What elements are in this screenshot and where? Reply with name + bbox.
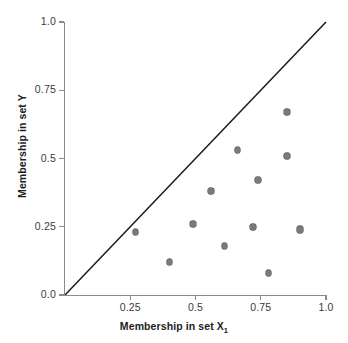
y-axis-tick-label: 1.0: [16, 15, 56, 27]
y-axis-tick: [59, 226, 64, 227]
y-axis-title: Membership in set Y: [16, 66, 28, 226]
x-axis-title-subscript: 1: [224, 326, 228, 335]
data-point-marker: [235, 147, 240, 153]
data-point-marker: [297, 226, 302, 232]
data-point-marker: [222, 243, 227, 249]
data-point-marker: [255, 177, 260, 183]
y-axis-line: [64, 22, 65, 296]
y-axis-tick: [59, 21, 64, 22]
x-axis-tick-label: 1.0: [306, 301, 346, 313]
x-axis-tick: [195, 295, 196, 300]
x-axis-tick-label: 0.25: [110, 301, 150, 313]
data-point-marker: [284, 109, 289, 115]
x-axis-tick: [325, 295, 326, 300]
y-axis-tick: [59, 158, 64, 159]
y-axis-tick: [59, 294, 64, 295]
x-axis-title: Membership in set X1: [0, 320, 348, 332]
x-axis-title-text: Membership in set X: [120, 320, 224, 332]
x-axis-tick: [260, 295, 261, 300]
y-axis-tick: [59, 90, 64, 91]
y-axis-tick-label: 0.0: [16, 288, 56, 300]
x-axis-tick-label: 0.75: [241, 301, 281, 313]
data-point-marker: [133, 229, 138, 235]
scatter-plot-figure: 1.00.750.50.250.00.250.50.751.0 Membersh…: [0, 0, 348, 343]
x-axis-tick-label: 0.5: [176, 301, 216, 313]
data-point-marker: [190, 221, 195, 227]
data-point-marker: [208, 188, 213, 194]
data-point-marker: [284, 153, 289, 159]
data-point-marker: [167, 259, 172, 265]
data-point-marker: [266, 270, 271, 276]
data-point-marker: [250, 224, 255, 230]
x-axis-tick: [130, 295, 131, 300]
